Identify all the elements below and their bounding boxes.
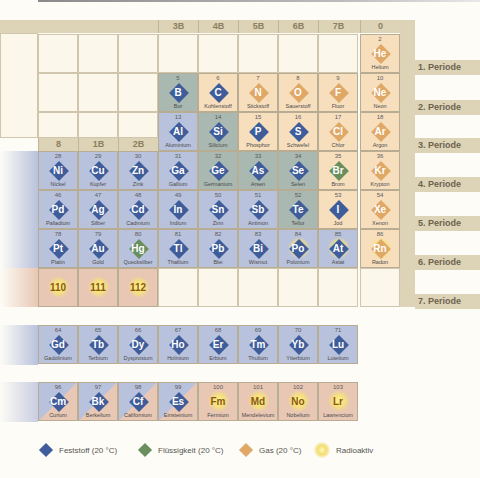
element-cell-b[interactable]: 5BBor — [158, 73, 198, 112]
element-name: Curium — [39, 412, 77, 419]
element-cell-n[interactable]: 7NStickstoff — [238, 73, 278, 112]
element-cell-tl[interactable]: 81TlThallium — [158, 229, 198, 268]
element-cell-tb[interactable]: 65TbTerbium — [78, 325, 118, 364]
element-cell-rn[interactable]: 86RnRadon — [360, 229, 400, 268]
element-cell-111[interactable]: 111 — [78, 268, 118, 307]
element-cell-110[interactable]: 110 — [38, 268, 78, 307]
element-symbol: At — [319, 242, 357, 256]
element-cell-fm[interactable]: 100FmFermium — [198, 382, 238, 421]
gas-diamond-icon — [239, 443, 253, 457]
element-cell-ga[interactable]: 31GaGallium — [158, 151, 198, 190]
element-cell-er[interactable]: 68ErErbium — [198, 325, 238, 364]
legend-item-liquid: Flüssigkeit (20 °C) — [137, 442, 223, 458]
element-cell-cf[interactable]: 98CfCalifornium — [118, 382, 158, 421]
atomic-number: 14 — [199, 114, 237, 121]
element-cell-as[interactable]: 33AsArsen — [238, 151, 278, 190]
atomic-number: 8 — [279, 75, 317, 82]
element-cell-es[interactable]: 99EsEinsteinium — [158, 382, 198, 421]
atomic-number: 30 — [119, 153, 157, 160]
element-symbol: O — [279, 86, 317, 100]
element-cell-gd[interactable]: 64GdGadolinium — [38, 325, 78, 364]
element-cell-cu[interactable]: 29CuKupfer — [78, 151, 118, 190]
atomic-number: 98 — [119, 384, 157, 391]
element-cell-ni[interactable]: 28NiNickel — [38, 151, 78, 190]
radioactive-icon — [314, 442, 330, 458]
element-cell-pt[interactable]: 78PtPlatin — [38, 229, 78, 268]
element-name: Holmium — [159, 355, 197, 362]
element-name: Antimon — [239, 220, 277, 227]
element-cell-se[interactable]: 34SeSelen — [278, 151, 318, 190]
element-name: Gold — [79, 259, 117, 266]
element-cell-cd[interactable]: 48CdCadmium — [118, 190, 158, 229]
element-cell-no[interactable]: 102NoNobelium — [278, 382, 318, 421]
element-cell-lu[interactable]: 71LuLutetium — [318, 325, 358, 364]
element-symbol: Ge — [199, 164, 237, 178]
atomic-number: 65 — [79, 327, 117, 334]
atomic-number: 5 — [159, 75, 197, 82]
element-name: Platin — [39, 259, 77, 266]
element-cell-tm[interactable]: 69TmThulium — [238, 325, 278, 364]
element-name: Tellur — [279, 220, 317, 227]
element-cell-dy[interactable]: 66DyDysprosium — [118, 325, 158, 364]
element-cell-ar[interactable]: 18ArArgon — [360, 112, 400, 151]
element-cell-he[interactable]: 2HeHelium — [360, 34, 400, 73]
element-cell-cm[interactable]: 96CmCurium — [38, 382, 78, 421]
atomic-number: 48 — [119, 192, 157, 199]
element-cell-hg[interactable]: 80HgQuecksilber — [118, 229, 158, 268]
element-cell-au[interactable]: 79AuGold — [78, 229, 118, 268]
element-cell-br[interactable]: 35BrBrom — [318, 151, 358, 190]
element-cell-xe[interactable]: 54XeXenon — [360, 190, 400, 229]
element-symbol: F — [319, 86, 357, 100]
element-symbol: Ag — [79, 203, 117, 217]
element-cell-at[interactable]: 85AtAstat — [318, 229, 358, 268]
element-symbol: Au — [79, 242, 117, 256]
element-cell-lr[interactable]: 103LrLawrencium — [318, 382, 358, 421]
element-name: Selen — [279, 181, 317, 188]
element-name: Thulium — [239, 355, 277, 362]
element-name: Phosphor — [239, 142, 277, 149]
element-cell-sn[interactable]: 50SnZinn — [198, 190, 238, 229]
element-cell-pb[interactable]: 82PbBlei — [198, 229, 238, 268]
element-cell-bk[interactable]: 97BkBerkelium — [78, 382, 118, 421]
element-cell-p[interactable]: 15PPhosphor — [238, 112, 278, 151]
element-cell-f[interactable]: 9FFluor — [318, 73, 358, 112]
element-cell-al[interactable]: 13AlAluminium — [158, 112, 198, 151]
element-cell-te[interactable]: 52TeTellur — [278, 190, 318, 229]
atomic-number: 71 — [319, 327, 357, 334]
element-symbol: Cm — [39, 395, 77, 409]
element-cell-cl[interactable]: 17ClChlor — [318, 112, 358, 151]
element-cell-si[interactable]: 14SiSilicium — [198, 112, 238, 151]
empty-cell — [158, 268, 198, 307]
element-cell-pd[interactable]: 46PdPalladium — [38, 190, 78, 229]
element-cell-kr[interactable]: 36KrKrypton — [360, 151, 400, 190]
element-symbol: I — [319, 203, 357, 217]
empty-cell — [318, 34, 358, 73]
element-name: Ytterbium — [279, 355, 317, 362]
element-name: Gadolinium — [39, 355, 77, 362]
group-header-3b: 3B — [158, 20, 198, 33]
element-cell-c[interactable]: 6CKohlenstoff — [198, 73, 238, 112]
element-name: Schwefel — [279, 142, 317, 149]
element-cell-yb[interactable]: 70YbYtterbium — [278, 325, 318, 364]
element-cell-ne[interactable]: 10NeNeon — [360, 73, 400, 112]
element-cell-ho[interactable]: 67HoHolmium — [158, 325, 198, 364]
element-cell-o[interactable]: 8OSauerstoff — [278, 73, 318, 112]
element-cell-ge[interactable]: 32GeGermanium — [198, 151, 238, 190]
element-name: Stickstoff — [239, 103, 277, 110]
empty-cell — [278, 34, 318, 73]
element-name: Blei — [199, 259, 237, 266]
element-cell-sb[interactable]: 51SbAntimon — [238, 190, 278, 229]
element-cell-zn[interactable]: 30ZnZink — [118, 151, 158, 190]
element-cell-112[interactable]: 112 — [118, 268, 158, 307]
element-name: Nickel — [39, 181, 77, 188]
element-cell-i[interactable]: 53IJod — [318, 190, 358, 229]
element-cell-po[interactable]: 84PoPolonium — [278, 229, 318, 268]
atomic-number: 97 — [79, 384, 117, 391]
element-cell-bi[interactable]: 83BiWismut — [238, 229, 278, 268]
element-cell-md[interactable]: 101MdMendelevium — [238, 382, 278, 421]
element-cell-s[interactable]: 16SSchwefel — [278, 112, 318, 151]
element-cell-ag[interactable]: 47AgSilber — [78, 190, 118, 229]
element-cell-in[interactable]: 49InIndium — [158, 190, 198, 229]
element-symbol: Dy — [119, 338, 157, 352]
atomic-number: 78 — [39, 231, 77, 238]
